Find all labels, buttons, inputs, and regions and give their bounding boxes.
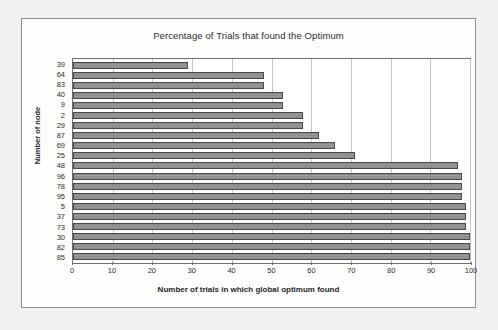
bar-29[interactable] (73, 122, 303, 129)
bar-row (73, 122, 470, 129)
bar-row (73, 132, 470, 139)
y-tick-label: 37 (22, 213, 70, 220)
x-tick-10 (112, 262, 113, 265)
y-tick-label: 40 (22, 91, 70, 98)
x-tick-label-70: 70 (347, 266, 355, 275)
x-tick-label-90: 90 (427, 266, 435, 275)
x-tick-50 (272, 262, 273, 265)
bar-row (73, 72, 470, 79)
bar-row (73, 183, 470, 190)
bar-row (73, 213, 470, 220)
x-tick-label-30: 30 (188, 266, 196, 275)
bar-69[interactable] (73, 142, 335, 149)
bar-2[interactable] (73, 112, 303, 119)
bar-82[interactable] (73, 243, 470, 250)
bar-row (73, 92, 470, 99)
y-tick-label: 5 (22, 203, 70, 210)
gridline-100 (470, 59, 471, 263)
bar-87[interactable] (73, 132, 319, 139)
bar-85[interactable] (73, 253, 470, 260)
y-tick-label: 96 (22, 173, 70, 180)
chart-frame: Percentage of Trials that found the Opti… (21, 18, 476, 308)
bar-64[interactable] (73, 72, 264, 79)
x-tick-label-10: 10 (108, 266, 116, 275)
x-tick-label-40: 40 (227, 266, 235, 275)
x-tick-0 (72, 262, 73, 265)
y-tick-label: 85 (22, 254, 70, 261)
bar-row (73, 253, 470, 260)
bar-row (73, 173, 470, 180)
bar-row (73, 102, 470, 109)
bar-30[interactable] (73, 233, 470, 240)
bar-83[interactable] (73, 82, 264, 89)
x-tick-label-80: 80 (387, 266, 395, 275)
bar-row (73, 152, 470, 159)
x-tick-80 (391, 262, 392, 265)
x-axis-tick-labels: 0102030405060708090100 (72, 266, 471, 278)
bar-39[interactable] (73, 62, 188, 69)
bar-73[interactable] (73, 223, 466, 230)
bar-row (73, 203, 470, 210)
x-axis-title: Number of trials in which global optimum… (22, 285, 475, 294)
x-tick-label-0: 0 (70, 266, 74, 275)
plot-area (72, 58, 471, 264)
y-tick-label: 73 (22, 224, 70, 231)
bar-row (73, 162, 470, 169)
x-tick-label-20: 20 (148, 266, 156, 275)
y-tick-label: 69 (22, 142, 70, 149)
bar-row (73, 223, 470, 230)
y-axis-tick-labels: 3964834092298769254896789553773308285 (22, 58, 70, 264)
x-tick-40 (232, 262, 233, 265)
y-tick-label: 87 (22, 132, 70, 139)
bar-row (73, 142, 470, 149)
x-tick-label-100: 100 (465, 266, 478, 275)
bar-48[interactable] (73, 162, 458, 169)
bar-96[interactable] (73, 173, 462, 180)
bar-row (73, 243, 470, 250)
bar-series (73, 59, 470, 263)
y-tick-label: 48 (22, 162, 70, 169)
bar-row (73, 112, 470, 119)
bar-95[interactable] (73, 193, 462, 200)
chart-title: Percentage of Trials that found the Opti… (22, 30, 475, 41)
y-tick-label: 82 (22, 244, 70, 251)
bar-5[interactable] (73, 203, 466, 210)
y-tick-label: 9 (22, 101, 70, 108)
x-tick-100 (471, 262, 472, 265)
bar-9[interactable] (73, 102, 283, 109)
x-tick-30 (192, 262, 193, 265)
bar-37[interactable] (73, 213, 466, 220)
bar-78[interactable] (73, 183, 462, 190)
x-tick-label-50: 50 (267, 266, 275, 275)
y-tick-label: 83 (22, 81, 70, 88)
y-tick-label: 78 (22, 183, 70, 190)
y-tick-label: 95 (22, 193, 70, 200)
x-tick-label-60: 60 (307, 266, 315, 275)
y-tick-label: 2 (22, 112, 70, 119)
bar-40[interactable] (73, 92, 283, 99)
x-tick-60 (311, 262, 312, 265)
x-tick-20 (152, 262, 153, 265)
y-tick-label: 25 (22, 152, 70, 159)
bar-row (73, 233, 470, 240)
y-tick-label: 30 (22, 234, 70, 241)
x-tick-90 (431, 262, 432, 265)
bar-row (73, 82, 470, 89)
y-tick-label: 29 (22, 122, 70, 129)
y-tick-label: 64 (22, 71, 70, 78)
y-tick-label: 39 (22, 61, 70, 68)
bar-row (73, 62, 470, 69)
x-tick-70 (351, 262, 352, 265)
bar-row (73, 193, 470, 200)
bar-25[interactable] (73, 152, 355, 159)
